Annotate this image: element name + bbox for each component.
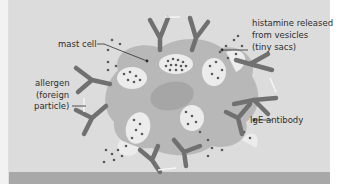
- label-allergen-line3: particle): [34, 101, 69, 111]
- label-histamine-line3: (tiny sacs): [252, 42, 296, 52]
- label-histamine-line2: from vesicles: [252, 30, 308, 40]
- label-allergen-line2: (foreign: [36, 90, 69, 100]
- label-ige-antibody: IgE antibody: [250, 115, 303, 125]
- label-histamine-line1: histamine released: [252, 18, 333, 28]
- label-allergen-line1: allergen: [35, 78, 70, 88]
- label-mast-cell: mast cell: [58, 39, 97, 49]
